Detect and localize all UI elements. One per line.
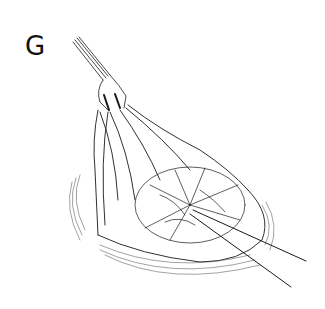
sutures bbox=[190, 210, 306, 287]
valve-leaflets bbox=[135, 167, 245, 243]
retractor-icon bbox=[73, 37, 126, 110]
tissue-flap bbox=[94, 105, 265, 262]
surgical-illustration bbox=[0, 0, 325, 309]
contour-lines bbox=[69, 175, 274, 274]
